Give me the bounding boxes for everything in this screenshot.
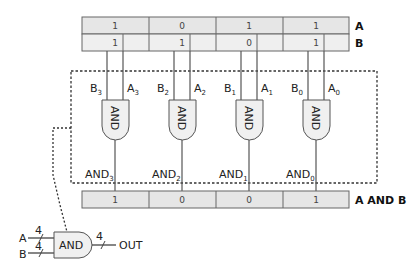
symbol-output: OUT [119, 239, 143, 252]
result-label: A AND B [355, 194, 406, 207]
gate-2-label: AND [175, 106, 188, 130]
gate-3: AND B3 A3 AND3 [85, 51, 139, 191]
register-a-label: A [355, 20, 364, 33]
gate-3-output: AND3 [85, 168, 114, 183]
result-bit-1: 0 [246, 195, 252, 205]
a-bit-1: 1 [246, 21, 252, 31]
gate-0-label: AND [309, 106, 322, 130]
gate-3-label: AND [108, 106, 121, 130]
gate-1-label: AND [242, 106, 255, 130]
symbol-input-b: B [19, 248, 27, 261]
gate-1: AND B1 A1 AND1 [219, 51, 273, 191]
gate-1-output: AND1 [219, 168, 248, 183]
gate-1-input-a: A1 [261, 82, 273, 97]
gate-3-input-a: A3 [127, 82, 139, 97]
gate-0-input-a: A0 [328, 82, 340, 97]
register-b-label: B [355, 37, 363, 50]
symbol-a-width: 4 [35, 224, 42, 237]
gate-1-input-b: B1 [224, 82, 236, 97]
and-gate-symbol: A B 4 4 AND 4 OUT [19, 224, 143, 261]
result-bit-3: 1 [112, 195, 118, 205]
gate-2: AND B2 A2 AND2 [152, 51, 206, 191]
expansion-connector [53, 128, 71, 232]
symbol-gate-label: AND [59, 239, 83, 252]
b-bit-0: 1 [313, 38, 319, 48]
gate-0-output: AND0 [286, 168, 315, 183]
gate-0-input-b: B0 [291, 82, 303, 97]
result-bit-0: 1 [313, 195, 319, 205]
symbol-out-width: 4 [96, 230, 103, 243]
and-circuit-diagram: 1 0 1 1 A 1 1 0 1 B AND B3 A3 AND3 [0, 0, 418, 278]
result-bit-2: 0 [179, 195, 185, 205]
gate-2-input-b: B2 [157, 82, 169, 97]
b-bit-2: 1 [179, 38, 185, 48]
a-bit-0: 1 [313, 21, 319, 31]
result-register: 1 0 0 1 A AND B [82, 191, 406, 208]
register-a: 1 0 1 1 A [82, 17, 364, 34]
register-b: 1 1 0 1 B [82, 34, 363, 51]
symbol-b-width: 4 [35, 240, 42, 253]
a-bit-3: 1 [112, 21, 118, 31]
gate-2-output: AND2 [152, 168, 181, 183]
b-bit-1: 0 [246, 38, 252, 48]
gate-3-input-b: B3 [90, 82, 102, 97]
gate-0: AND B0 A0 AND0 [286, 51, 340, 191]
symbol-input-a: A [19, 232, 27, 245]
b-bit-3: 1 [112, 38, 118, 48]
a-bit-2: 0 [179, 21, 185, 31]
gate-2-input-a: A2 [194, 82, 206, 97]
